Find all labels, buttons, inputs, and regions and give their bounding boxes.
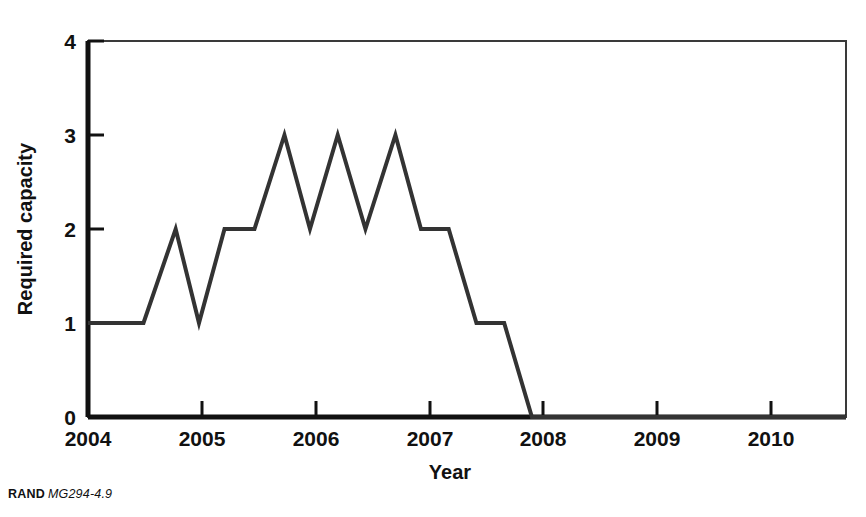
y-tick-label: 4 <box>64 30 76 53</box>
x-tick-label: 2008 <box>520 427 567 450</box>
credit-brand: RAND <box>8 487 45 501</box>
x-tick-label: 2009 <box>634 427 681 450</box>
x-tick-label: 2005 <box>179 427 226 450</box>
x-tick-label: 2004 <box>65 427 112 450</box>
figure-credit: RANDMG294-4.9 <box>8 487 112 501</box>
y-tick-labels: 4 3 2 1 0 <box>64 30 76 429</box>
x-axis-title: Year <box>429 461 471 483</box>
y-tick-label: 3 <box>64 124 76 147</box>
x-tick-label: 2006 <box>293 427 340 450</box>
credit-identifier: MG294-4.9 <box>48 487 112 501</box>
x-tick-label: 2010 <box>748 427 795 450</box>
y-tick-label: 2 <box>64 218 76 241</box>
plot-frame <box>88 41 846 417</box>
x-tick-label: 2007 <box>407 427 454 450</box>
x-tick-labels: 2004 2005 2006 2007 2008 2009 2010 <box>65 427 795 450</box>
figure-container: 4 3 2 1 0 2004 2005 2006 2007 2008 2009 … <box>0 0 866 517</box>
y-tick-label: 1 <box>64 312 76 335</box>
required-capacity-line-chart: 4 3 2 1 0 2004 2005 2006 2007 2008 2009 … <box>0 0 866 517</box>
y-tick-label: 0 <box>64 406 76 429</box>
y-axis-title: Required capacity <box>14 142 36 315</box>
